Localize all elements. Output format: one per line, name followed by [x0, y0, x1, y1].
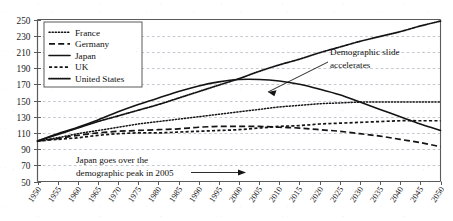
- demographic-index-line-chart: 250230210190170150130110907050 195019551…: [0, 0, 453, 221]
- y-tick-label: 90: [21, 145, 31, 155]
- legend-label-uk: UK: [75, 62, 89, 72]
- legend-label-france: France: [75, 28, 100, 38]
- y-tick-label: 230: [17, 32, 31, 42]
- y-tick-label: 110: [17, 129, 31, 139]
- y-tick-label: 210: [17, 48, 31, 58]
- annotation-demographic-slide-line2: accelerates: [330, 60, 371, 70]
- annotation-japan-peak-line1: Japan goes over the: [76, 155, 148, 165]
- chart-legend: FranceGermanyJapanUKUnited States: [44, 22, 142, 87]
- legend-label-germany: Germany: [75, 39, 110, 49]
- y-tick-label: 70: [21, 161, 31, 171]
- y-tick-label: 250: [17, 16, 31, 26]
- legend-label-united-states: United States: [75, 74, 125, 84]
- annotation-demographic-slide-line1: Demographic slide: [330, 47, 400, 57]
- annotation-japan-peak-line2: demographic peak in 2005: [76, 168, 174, 178]
- legend-label-japan: Japan: [75, 51, 96, 61]
- y-tick-label: 130: [17, 113, 31, 123]
- y-tick-label: 150: [17, 97, 31, 107]
- y-tick-label: 50: [21, 178, 31, 188]
- chart-figure: 250230210190170150130110907050 195019551…: [0, 0, 453, 221]
- y-tick-label: 170: [17, 80, 31, 90]
- y-tick-label: 190: [17, 64, 31, 74]
